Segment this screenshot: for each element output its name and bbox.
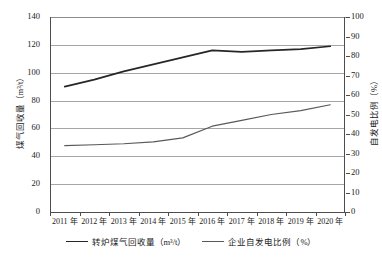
left-axis-tick-label: 20 — [14, 179, 40, 188]
right-axis-title: 自发电比例（%） — [367, 56, 379, 166]
right-axis-tick-mark — [346, 56, 350, 57]
right-axis-tick-mark — [346, 173, 350, 174]
left-axis-title: 煤气回收量（m³/t） — [13, 56, 25, 166]
right-axis-tick-label: 0 — [351, 207, 377, 216]
right-axis-tick-label: 10 — [351, 188, 377, 197]
right-axis-tick-label: 90 — [351, 32, 377, 41]
x-axis-tick-label: 2012 年 — [81, 216, 107, 228]
plot-area — [50, 17, 345, 212]
left-axis-tick-label: 140 — [14, 12, 40, 21]
chart-legend: 转炉煤气回收量（m³/t） 企业自发电比例（%） — [0, 235, 382, 247]
legend-item-gas-recovery: 转炉煤气回收量（m³/t） — [66, 235, 187, 247]
x-axis-tick-label: 2013 年 — [111, 216, 137, 228]
right-axis-tick-label: 100 — [351, 12, 377, 21]
legend-line-icon — [202, 241, 224, 242]
x-axis-tick-label: 2011 年 — [52, 216, 78, 228]
right-axis-tick-mark — [346, 17, 350, 18]
right-axis-tick-mark — [346, 154, 350, 155]
right-axis-tick-mark — [346, 115, 350, 116]
right-axis-tick-mark — [346, 134, 350, 135]
right-axis-tick-mark — [346, 193, 350, 194]
x-axis-tick-label: 2020 年 — [317, 216, 343, 228]
x-axis-tick-label: 2017 年 — [229, 216, 255, 228]
right-axis-tick-label: 20 — [351, 168, 377, 177]
legend-item-self-power-ratio: 企业自发电比例（%） — [202, 235, 316, 247]
chart-container: 020406080100120140 010203040506070809010… — [0, 0, 382, 258]
right-axis-tick-mark — [346, 95, 350, 96]
legend-label: 转炉煤气回收量（m³/t） — [92, 235, 187, 247]
x-axis-tick-label: 2015 年 — [170, 216, 196, 228]
right-axis-tick-mark — [346, 212, 350, 213]
x-axis-tick-label: 2019 年 — [288, 216, 314, 228]
left-axis-tick-label: 0 — [14, 207, 40, 216]
legend-line-icon — [66, 241, 88, 242]
left-axis-tick-label: 120 — [14, 40, 40, 49]
x-axis-tick-label: 2018 年 — [258, 216, 284, 228]
x-axis-tick-label: 2016 年 — [199, 216, 225, 228]
x-axis-labels: 2011 年2012 年2013 年2014 年2015 年2016 年2017… — [50, 216, 346, 230]
x-axis-tick-label: 2014 年 — [140, 216, 166, 228]
legend-label: 企业自发电比例（%） — [228, 235, 316, 247]
right-axis-tick-mark — [346, 76, 350, 77]
right-axis-tick-mark — [346, 37, 350, 38]
